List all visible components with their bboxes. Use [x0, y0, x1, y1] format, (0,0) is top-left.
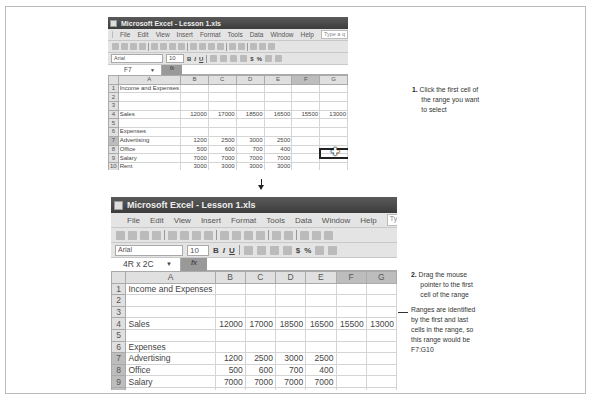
doc-icon[interactable] — [112, 31, 113, 38]
menu-view[interactable]: View — [174, 216, 191, 225]
grid-cell[interactable]: 700 — [236, 145, 264, 154]
menu-window[interactable]: Window — [270, 31, 293, 38]
grid-cell[interactable] — [336, 376, 366, 388]
grid-cell[interactable] — [245, 306, 275, 318]
bold-button[interactable]: B — [187, 56, 191, 62]
grid-cell[interactable]: Salary — [118, 154, 180, 163]
merge-center-icon[interactable] — [240, 55, 247, 62]
grid-cell[interactable] — [181, 119, 209, 128]
menu-help[interactable]: Help — [360, 216, 376, 225]
percent-button[interactable]: % — [257, 56, 262, 62]
grid-cell[interactable] — [245, 295, 275, 307]
column-header-g[interactable]: G — [366, 272, 396, 284]
grid-cell[interactable]: 3000 — [276, 387, 306, 390]
grid-cell[interactable] — [245, 283, 275, 295]
grid-cell[interactable] — [366, 295, 396, 307]
grid-cell[interactable] — [264, 128, 292, 137]
print-preview-icon[interactable] — [160, 43, 167, 50]
print-icon[interactable] — [151, 43, 158, 50]
row-header[interactable]: 3 — [112, 306, 126, 318]
grid-cell[interactable] — [306, 329, 336, 341]
grid-cell[interactable] — [292, 102, 320, 111]
grid-cell[interactable]: 7000 — [181, 154, 209, 163]
new-icon[interactable] — [112, 43, 119, 50]
column-header-a[interactable]: A — [126, 272, 215, 284]
grid-cell[interactable]: 3000 — [264, 162, 292, 170]
research-icon[interactable] — [204, 231, 213, 240]
print-preview-icon[interactable] — [180, 231, 189, 240]
menu-insert[interactable]: Insert — [201, 216, 221, 225]
grid-cell[interactable]: 600 — [245, 364, 275, 376]
row-header[interactable]: 7 — [109, 136, 119, 145]
grid-cell[interactable] — [306, 341, 336, 353]
grid-cell[interactable] — [292, 154, 320, 163]
open-icon[interactable] — [121, 43, 128, 50]
print-icon[interactable] — [168, 231, 177, 240]
sort-ascending-icon[interactable] — [324, 231, 333, 240]
save-icon[interactable] — [130, 43, 137, 50]
permission-icon[interactable] — [152, 231, 161, 240]
row-header[interactable]: 5 — [109, 119, 119, 128]
grid-cell[interactable] — [264, 119, 292, 128]
percent-button[interactable]: % — [304, 246, 311, 255]
grid-cell[interactable] — [208, 119, 236, 128]
grid-cell[interactable] — [366, 364, 396, 376]
grid-cell[interactable] — [236, 119, 264, 128]
grid-cell[interactable]: 13000 — [366, 318, 396, 330]
grid-cell[interactable]: Income and Expenses — [118, 84, 180, 93]
grid-cell[interactable]: Rent — [118, 162, 180, 170]
grid-cell[interactable] — [118, 119, 180, 128]
select-all-corner[interactable] — [109, 76, 119, 85]
row-header[interactable]: 6 — [112, 341, 126, 353]
redo-icon[interactable] — [238, 43, 245, 50]
dropdown-arrow-icon[interactable]: ▼ — [150, 67, 155, 73]
grid-cell[interactable] — [126, 306, 215, 318]
cut-icon[interactable] — [190, 43, 197, 50]
currency-button[interactable]: $ — [250, 56, 253, 62]
ask-question-box[interactable]: Type a q — [387, 214, 397, 226]
grid-cell[interactable] — [236, 102, 264, 111]
grid-cell[interactable]: 12000 — [215, 318, 245, 330]
undo-icon[interactable] — [272, 231, 281, 240]
row-header[interactable]: 1 — [112, 283, 126, 295]
dropdown-arrow-icon[interactable]: ▼ — [166, 261, 172, 267]
grid-cell[interactable] — [292, 119, 320, 128]
bold-button[interactable]: B — [213, 246, 219, 255]
research-icon[interactable] — [178, 43, 185, 50]
italic-button[interactable]: I — [194, 56, 196, 62]
grid-cell[interactable] — [208, 93, 236, 102]
grid-cell[interactable] — [126, 295, 215, 307]
menu-data[interactable]: Data — [250, 31, 264, 38]
row-header[interactable]: 6 — [109, 128, 119, 137]
paste-icon[interactable] — [208, 43, 215, 50]
grid-cell[interactable]: 16500 — [264, 110, 292, 119]
paste-icon[interactable] — [244, 231, 253, 240]
column-header-c[interactable]: C — [245, 272, 275, 284]
grid-cell[interactable] — [208, 84, 236, 93]
new-icon[interactable] — [116, 231, 125, 240]
grid-cell[interactable]: Income and Expenses — [126, 283, 215, 295]
grid-cell[interactable] — [245, 341, 275, 353]
grid-cell[interactable]: 15500 — [292, 110, 320, 119]
align-right-icon[interactable] — [270, 246, 279, 255]
grid-cell[interactable] — [320, 102, 348, 111]
grid-cell[interactable] — [306, 306, 336, 318]
copy-icon[interactable] — [199, 43, 206, 50]
grid-cell[interactable]: 17000 — [245, 318, 275, 330]
hyperlink-icon[interactable] — [300, 231, 309, 240]
menu-format[interactable]: Format — [231, 216, 256, 225]
grid-cell[interactable] — [336, 306, 366, 318]
row-header[interactable]: 2 — [109, 93, 119, 102]
grid-cell[interactable] — [215, 295, 245, 307]
grid-cell[interactable] — [208, 102, 236, 111]
grid-cell[interactable] — [320, 93, 348, 102]
name-box[interactable]: 4R x 2C ▼ — [111, 258, 181, 271]
menu-insert[interactable]: Insert — [177, 31, 193, 38]
grid-cell[interactable] — [366, 341, 396, 353]
grid-cell[interactable]: 500 — [215, 364, 245, 376]
font-size-select[interactable]: 10 — [187, 245, 209, 256]
spelling-icon[interactable] — [169, 43, 176, 50]
grid-cell[interactable] — [320, 162, 348, 170]
grid-cell[interactable]: 400 — [264, 145, 292, 154]
menu-window[interactable]: Window — [322, 216, 350, 225]
